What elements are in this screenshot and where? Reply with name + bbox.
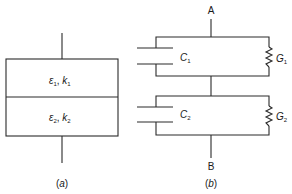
panel-a-two-layer-dielectric [6,33,118,163]
c1-label: C1 [180,52,191,64]
loop2-top-wire [156,96,269,107]
g2-resistor-icon [266,106,272,126]
loop2-bottom-wire [156,122,269,135]
g1-label: G1 [276,53,288,65]
g1-resistor-icon [266,47,272,67]
layer2-label: ε2, k2 [49,112,71,124]
g2-label: G2 [276,111,288,123]
loop1-top-wire [156,37,269,48]
panel-b-equivalent-circuit [137,19,272,158]
dielectric-diagram: ε1, k1 ε2, k2 (a) A C1 G1 C2 G2 B (b) [0,0,292,194]
node-b-label: B [208,161,215,172]
layer1-label: ε1, k1 [49,75,71,87]
c2-label: C2 [180,109,191,121]
node-a-label: A [208,5,215,16]
caption-a: (a) [56,178,68,189]
caption-b: (b) [205,178,217,189]
loop1-bottom-wire [156,64,269,76]
